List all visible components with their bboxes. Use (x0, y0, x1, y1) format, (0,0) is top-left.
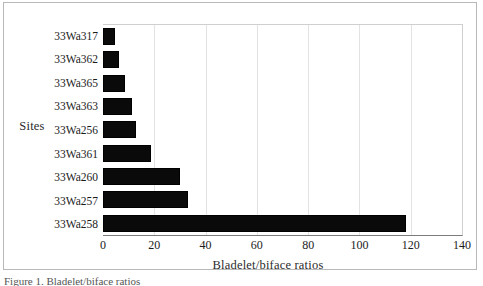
category-label: 33Wa258 (45, 213, 101, 237)
category-label: 33Wa257 (45, 189, 101, 213)
bar (103, 28, 115, 45)
category-label: 33Wa362 (45, 48, 101, 72)
x-axis-tick-labels: 020406080100120140 (103, 238, 463, 254)
bar-row (103, 165, 462, 188)
bar-row (103, 95, 462, 118)
x-tick-label: 40 (200, 238, 212, 253)
bar-row (103, 72, 462, 95)
bar (103, 191, 188, 208)
gridline (462, 25, 463, 235)
bar (103, 98, 132, 115)
category-label: 33Wa260 (45, 165, 101, 189)
bar-row (103, 142, 462, 165)
bar (103, 121, 136, 138)
bar (103, 168, 180, 185)
bar-series (103, 25, 462, 235)
x-axis-title: Bladelet/biface ratios (103, 258, 433, 273)
bar (103, 145, 151, 162)
bar-row (103, 188, 462, 211)
plot-area (103, 24, 463, 236)
bar-row (103, 48, 462, 71)
x-tick-label: 120 (402, 238, 420, 253)
bar (103, 215, 406, 232)
bar-row (103, 25, 462, 48)
bar-row (103, 118, 462, 141)
x-tick-label: 0 (100, 238, 106, 253)
figure-root: Sites 33Wa317 33Wa362 33Wa365 33Wa363 33… (0, 0, 483, 286)
category-label: 33Wa317 (45, 24, 101, 48)
x-tick-label: 20 (148, 238, 160, 253)
x-tick-label: 60 (251, 238, 263, 253)
category-axis-labels: 33Wa317 33Wa362 33Wa365 33Wa363 33Wa256 … (45, 24, 101, 236)
category-label: 33Wa363 (45, 95, 101, 119)
bar-row (103, 212, 462, 235)
category-label: 33Wa361 (45, 142, 101, 166)
x-tick-label: 80 (302, 238, 314, 253)
bar (103, 75, 125, 92)
figure-caption: Figure 1. Bladelet/biface ratios (4, 275, 464, 286)
category-label: 33Wa256 (45, 118, 101, 142)
x-tick-label: 140 (453, 238, 471, 253)
bar (103, 51, 119, 68)
x-tick-label: 100 (350, 238, 368, 253)
category-label: 33Wa365 (45, 71, 101, 95)
